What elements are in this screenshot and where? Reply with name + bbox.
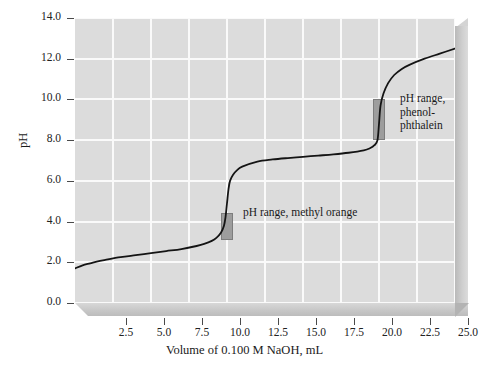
y-tick-mark	[67, 59, 74, 60]
y-tick-label: 10.0	[13, 91, 61, 103]
y-axis-title: pH	[16, 133, 31, 148]
x-tick-mark	[392, 318, 393, 325]
y-tick-mark	[67, 222, 74, 223]
x-tick-mark	[164, 318, 165, 325]
x-tick-mark	[202, 318, 203, 325]
y-tick-mark	[67, 303, 74, 304]
annotation-methyl-orange: pH range, methyl orange	[243, 206, 357, 220]
x-tick-mark	[354, 318, 355, 325]
x-axis-title: Volume of 0.100 M NaOH, mL	[0, 343, 489, 358]
y-tick-label: 14.0	[13, 10, 61, 22]
y-tick-label: 12.0	[13, 51, 61, 63]
y-tick-mark	[67, 99, 74, 100]
titration-curve-figure: 0.02.04.06.08.010.012.014.0 2.55.07.510.…	[0, 0, 489, 368]
y-tick-label: 2.0	[13, 254, 61, 266]
y-tick-label: 6.0	[13, 173, 61, 185]
y-tick-mark	[67, 181, 74, 182]
plot-area	[75, 18, 455, 303]
y-tick-label: 0.0	[13, 295, 61, 307]
x-tick-mark	[468, 318, 469, 325]
x-tick-mark	[126, 318, 127, 325]
x-tick-label: 25.0	[443, 326, 489, 338]
x-tick-mark	[278, 318, 279, 325]
x-tick-mark	[316, 318, 317, 325]
x-tick-mark	[240, 318, 241, 325]
titration-curve-line	[75, 18, 455, 303]
annotation-phenolphthalein: pH range, phenol- phthalein	[400, 92, 445, 133]
plot-3d-bottom-face	[75, 303, 468, 316]
x-tick-mark	[430, 318, 431, 325]
y-tick-mark	[67, 262, 74, 263]
y-tick-label: 4.0	[13, 214, 61, 226]
plot-3d-right-face	[455, 26, 468, 311]
y-tick-mark	[67, 18, 74, 19]
y-tick-mark	[67, 140, 74, 141]
